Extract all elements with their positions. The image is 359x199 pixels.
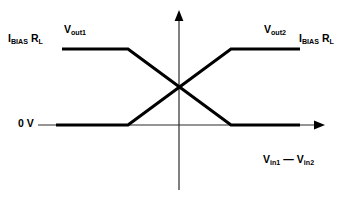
y-axis-arrow-icon <box>175 10 184 21</box>
label-vout2: Vout2 <box>264 24 286 35</box>
ibias-left-subscript: BIAS <box>11 38 28 46</box>
rl-left-symbol: R <box>31 32 39 44</box>
label-ibias-rl-left: IBIASRL <box>8 33 43 44</box>
vin2-subscript: in2 <box>304 159 314 167</box>
label-vout1: Vout1 <box>64 24 86 35</box>
rl-right-subscript: L <box>330 38 334 46</box>
vin1-symbol: V <box>263 153 270 165</box>
rl-left-subscript: L <box>39 38 43 46</box>
rl-right-symbol: R <box>322 32 330 44</box>
vin2-symbol: V <box>297 153 304 165</box>
transfer-characteristic-figure: IBIASRL Vout1 Vout2 IBIASRL 0 V Vin1—Vin… <box>0 0 359 199</box>
vout1-subscript: out1 <box>71 29 86 37</box>
label-x-axis: Vin1—Vin2 <box>263 154 314 165</box>
vin1-subscript: in1 <box>270 159 280 167</box>
plot-canvas <box>0 0 359 199</box>
label-ibias-rl-right: IBIASRL <box>299 33 334 44</box>
label-zero-volts: 0 V <box>18 118 34 129</box>
vout1-symbol: V <box>64 23 71 35</box>
vout2-subscript: out2 <box>271 29 286 37</box>
vout2-symbol: V <box>264 23 271 35</box>
ibias-right-subscript: BIAS <box>302 38 319 46</box>
x-axis-arrow-icon <box>314 121 325 130</box>
vout2-curve <box>56 49 300 125</box>
minus-sign: — <box>280 154 297 165</box>
